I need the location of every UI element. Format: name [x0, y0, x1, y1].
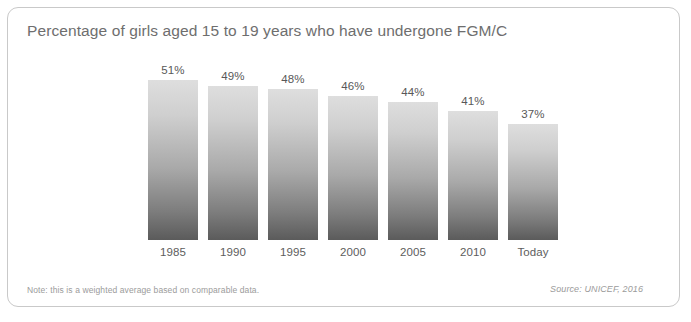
- bar-chart-plot-area: 51%198549%199048%199546%200044%200541%20…: [8, 8, 681, 258]
- bar-group: 48%1995: [268, 8, 318, 258]
- bar: [388, 102, 438, 240]
- bar-value-label: 49%: [208, 70, 258, 82]
- chart-source: Source: UNICEF, 2016: [550, 284, 643, 294]
- bar-group: 44%2005: [388, 8, 438, 258]
- chart-card: Percentage of girls aged 15 to 19 years …: [7, 7, 680, 307]
- bar: [208, 86, 258, 240]
- chart-note: Note: this is a weighted average based o…: [27, 285, 259, 295]
- bar-group: 51%1985: [148, 8, 198, 258]
- x-axis-tick-label: 2000: [328, 246, 378, 258]
- bar-group: 41%2010: [448, 8, 498, 258]
- bar: [148, 80, 198, 240]
- x-axis-tick-label: 1985: [148, 246, 198, 258]
- bar-value-label: 41%: [448, 95, 498, 107]
- bar-value-label: 44%: [388, 86, 438, 98]
- bar-value-label: 51%: [148, 64, 198, 76]
- bar-value-label: 37%: [508, 108, 558, 120]
- bar-value-label: 46%: [328, 80, 378, 92]
- x-axis-tick-label: Today: [508, 246, 558, 258]
- bar: [448, 111, 498, 240]
- bar: [508, 124, 558, 240]
- bar: [268, 89, 318, 240]
- bar-group: 37%Today: [508, 8, 558, 258]
- x-axis-tick-label: 2010: [448, 246, 498, 258]
- bar: [328, 96, 378, 240]
- x-axis-tick-label: 1990: [208, 246, 258, 258]
- x-axis-tick-label: 1995: [268, 246, 318, 258]
- bar-group: 46%2000: [328, 8, 378, 258]
- bar-value-label: 48%: [268, 73, 318, 85]
- bar-group: 49%1990: [208, 8, 258, 258]
- x-axis-tick-label: 2005: [388, 246, 438, 258]
